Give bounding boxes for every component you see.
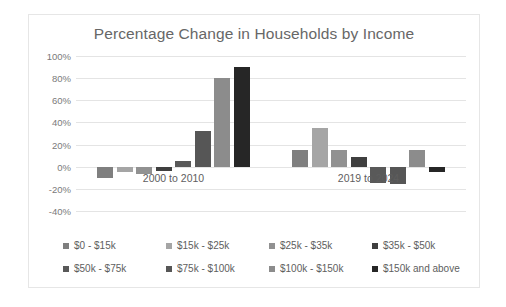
- gridline: [76, 145, 466, 146]
- chart-bar: [195, 131, 211, 166]
- y-axis-tick-label: 60%: [52, 95, 71, 106]
- y-axis-tick-label: 0%: [57, 161, 71, 172]
- legend-item-label: $75k - $100k: [177, 263, 235, 274]
- legend-item-label: $35k - $50k: [383, 240, 435, 251]
- legend-item[interactable]: $75k - $100k: [152, 257, 255, 280]
- legend-swatch-icon: [166, 266, 172, 272]
- chart-bar: [156, 167, 172, 171]
- y-axis-tick-label: -40%: [49, 206, 71, 217]
- chart-bar: [312, 128, 328, 167]
- y-axis-tick-label: -20%: [49, 183, 71, 194]
- chart-bar: [214, 78, 230, 167]
- legend-swatch-icon: [372, 266, 378, 272]
- chart-bar: [292, 150, 308, 167]
- legend-swatch-icon: [63, 266, 69, 272]
- chart-bar: [351, 157, 367, 167]
- legend-swatch-icon: [269, 266, 275, 272]
- chart-legend: $0 - $15k$15k - $25k$25k - $35k$35k - $5…: [49, 234, 461, 280]
- gridline: [76, 211, 466, 212]
- legend-item-label: $50k - $75k: [74, 263, 126, 274]
- legend-swatch-icon: [63, 243, 69, 249]
- legend-item-label: $25k - $35k: [280, 240, 332, 251]
- legend-item[interactable]: $25k - $35k: [255, 234, 358, 257]
- chart-bar: [234, 67, 250, 167]
- y-axis-tick-label: 80%: [52, 73, 71, 84]
- legend-swatch-icon: [269, 243, 275, 249]
- legend-item[interactable]: $35k - $50k: [358, 234, 461, 257]
- gridline: [76, 122, 466, 123]
- gridline: [76, 78, 466, 79]
- legend-item[interactable]: $0 - $15k: [49, 234, 152, 257]
- legend-item[interactable]: $100k - $150k: [255, 257, 358, 280]
- legend-item[interactable]: $50k - $75k: [49, 257, 152, 280]
- gridline: [76, 100, 466, 101]
- chart-title: Percentage Change in Households by Incom…: [29, 25, 479, 43]
- legend-swatch-icon: [166, 243, 172, 249]
- y-axis-tick-label: 100%: [47, 51, 71, 62]
- legend-item-label: $100k - $150k: [280, 263, 343, 274]
- y-axis-tick-label: 40%: [52, 117, 71, 128]
- x-axis-category-label: 2000 to 2010: [143, 172, 204, 184]
- gridline: [76, 189, 466, 190]
- plot-area: 100%80%60%40%20%0%-20%-40%2000 to 201020…: [76, 56, 466, 211]
- legend-item-label: $15k - $25k: [177, 240, 229, 251]
- legend-item[interactable]: $15k - $25k: [152, 234, 255, 257]
- gridline: [76, 56, 466, 57]
- y-axis-tick-label: 20%: [52, 139, 71, 150]
- x-axis-category-label: 2019 to 2024: [338, 172, 399, 184]
- chart-bar: [331, 150, 347, 167]
- chart-bar: [117, 167, 133, 173]
- legend-swatch-icon: [372, 243, 378, 249]
- chart-bar: [97, 167, 113, 178]
- legend-item[interactable]: $150k and above: [358, 257, 461, 280]
- chart-bar: [175, 161, 191, 167]
- chart-bar: [429, 167, 445, 173]
- chart-container: Percentage Change in Households by Incom…: [28, 14, 480, 288]
- legend-item-label: $150k and above: [383, 263, 460, 274]
- chart-bar: [409, 150, 425, 167]
- gridline: [76, 167, 466, 168]
- legend-item-label: $0 - $15k: [74, 240, 116, 251]
